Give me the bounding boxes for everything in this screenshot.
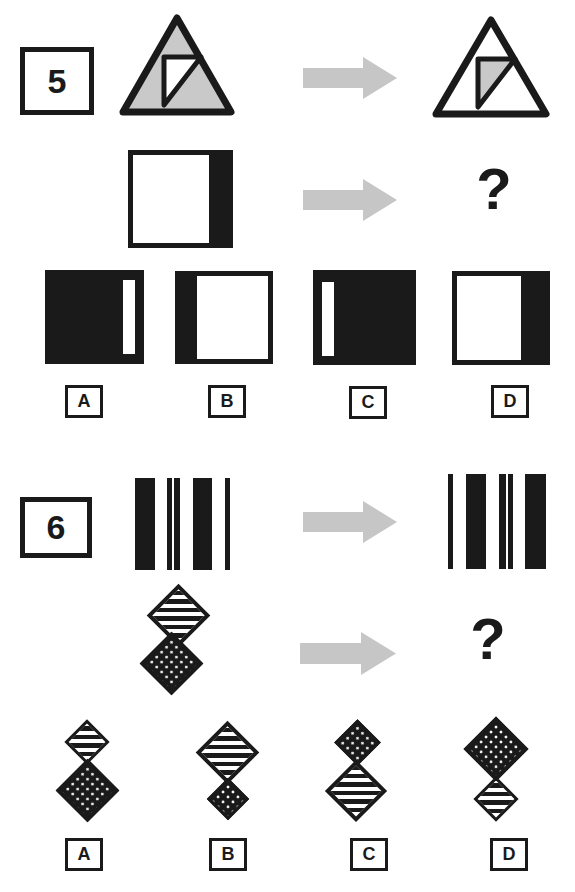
q6-stem-dotted-diamond [140,632,204,696]
q6-option-d-letter-box[interactable]: D [490,838,528,871]
q5-option-a-figure [45,270,144,364]
q5-option-d-figure [452,271,550,365]
q5-option-c-letter: C [362,392,375,413]
q5-stem-black-band [209,155,228,243]
q6-example-source-striped-square [135,478,230,570]
q6-question-mark: ? [462,610,514,668]
white-triangle-icon [430,14,552,120]
q6-option-c-letter: C [363,844,376,865]
q5-option-c-white-strip [322,282,334,356]
q6-example-result-striped-square [448,474,546,569]
arrow-right-icon [303,177,398,223]
gray-triangle-icon [118,12,236,118]
q6-option-d-bottom-diamond [473,776,518,821]
q6-option-b-letter-box[interactable]: B [209,838,247,871]
q5-stem-square [128,150,233,248]
question-6-number-box: 6 [20,497,92,558]
q5-option-b-black-band [180,276,197,359]
q6-option-d-top-diamond [463,716,528,781]
question-6-number: 6 [47,508,66,547]
q5-option-b-letter-box[interactable]: B [208,385,246,418]
q5-option-b-letter: B [221,391,234,412]
q5-option-a-letter: A [78,391,91,412]
q5-option-c-figure [313,270,416,365]
q5-option-d-letter: D [504,391,517,412]
arrow-right-icon [303,499,398,545]
q6-option-d-letter: D [503,844,516,865]
q5-option-c-letter-box[interactable]: C [349,386,387,419]
q5-question-mark: ? [468,160,520,218]
q6-option-c-top-diamond [334,719,381,766]
arrow-right-icon [303,55,398,101]
q6-option-a-letter: A [78,844,91,865]
q6-option-c-letter-box[interactable]: C [350,838,388,871]
q5-example-source-triangle [118,12,236,122]
question-5-number: 5 [48,62,67,101]
q6-option-b-bottom-diamond [207,778,249,820]
q5-option-a-white-strip [123,280,135,354]
arrow-right-icon [300,630,397,677]
question-5-number-box: 5 [20,47,94,115]
q5-option-a-letter-box[interactable]: A [65,385,103,418]
q6-option-b-letter: B [222,844,235,865]
q6-option-b-top-diamond [196,721,260,785]
test-page: 5 ? [0,0,575,892]
q6-option-c-bottom-diamond [325,760,387,822]
q5-example-result-triangle [430,14,552,124]
q5-option-d-letter-box[interactable]: D [491,385,529,418]
q6-option-a-letter-box[interactable]: A [65,838,103,871]
q5-option-b-figure [175,271,273,364]
q6-option-a-bottom-diamond [56,759,120,823]
q5-option-d-black-band [521,276,545,360]
